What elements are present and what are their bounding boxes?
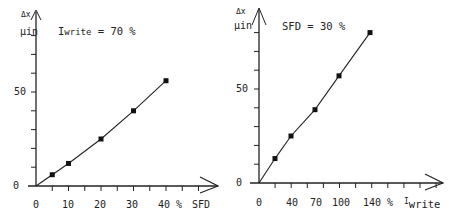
- right-ylabel-unit: µin: [234, 20, 252, 31]
- data-point-marker: [273, 156, 278, 161]
- right-annotation: SFD = 30 %: [282, 20, 346, 32]
- left-series-markers: [50, 78, 169, 177]
- data-point-marker: [99, 137, 104, 142]
- right-ytick-50: 50: [236, 83, 248, 94]
- left-annotation: Iwrite = 70 %: [58, 25, 136, 37]
- left-ytick-50: 50: [14, 86, 26, 97]
- data-point-marker: [66, 161, 71, 166]
- right-xtick-0: 0: [256, 197, 262, 208]
- right-xtick-70: 70: [310, 197, 322, 208]
- left-xtick-10: 10: [62, 199, 74, 210]
- right-xtick-140: 140 %: [363, 197, 393, 208]
- right-xtick-100: 100: [332, 197, 350, 208]
- data-point-marker: [131, 108, 136, 113]
- right-ytick-0: 0: [236, 177, 242, 188]
- left-xtick-20: 20: [94, 199, 106, 210]
- right-xlabel: Iwrite: [404, 197, 440, 210]
- data-point-marker: [289, 134, 294, 139]
- left-series-line: [36, 81, 166, 186]
- left-xtick-0: 0: [33, 199, 39, 210]
- data-point-marker: [50, 172, 55, 177]
- data-point-marker: [337, 73, 342, 78]
- data-point-marker: [164, 78, 169, 83]
- left-ylabel-unit: µin: [20, 26, 38, 37]
- data-point-marker: [313, 107, 318, 112]
- right-xtick-40: 40: [286, 197, 298, 208]
- right-x-arrow-icon: [425, 174, 443, 190]
- right-ylabel-delta: Δx: [236, 7, 246, 16]
- left-xtick-40: 40 %: [158, 199, 182, 210]
- left-x-arrow-icon: [200, 177, 218, 193]
- left-ylabel-delta: Δx: [21, 10, 31, 19]
- chart-canvas: Δx µin 50 0 0 10 20 30 40 % SFD Iwrite =…: [0, 0, 449, 222]
- left-xlabel: SFD: [192, 199, 210, 210]
- right-chart: Δx µin 50 0 0 40 70 100 140 % Iwrite SFD…: [234, 7, 443, 210]
- data-point-marker: [368, 30, 373, 35]
- left-xtick-30: 30: [126, 199, 138, 210]
- left-chart: Δx µin 50 0 0 10 20 30 40 % SFD Iwrite =…: [13, 10, 218, 210]
- left-ytick-0: 0: [13, 180, 19, 191]
